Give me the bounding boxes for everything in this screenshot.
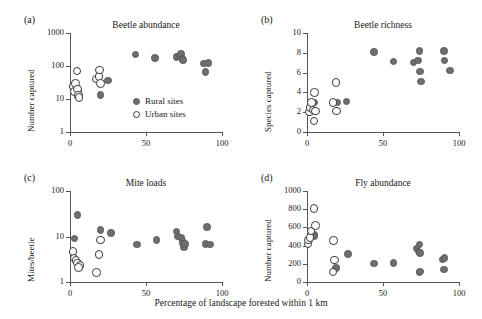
- data-point-c-rural-3: [107, 229, 115, 237]
- data-point-c-urban-8: [96, 236, 105, 245]
- data-point-c-rural-1: [74, 211, 82, 219]
- data-point-d-urban-7: [330, 256, 339, 265]
- y-tick-label-d-2: 400: [267, 240, 301, 250]
- data-point-c-rural-4: [133, 241, 141, 249]
- y-tick-label-d-1: 200: [267, 258, 301, 268]
- data-point-d-rural-13: [441, 254, 449, 262]
- y-tick-label-d-4: 800: [267, 203, 301, 213]
- x-tick-label-d-2: 100: [439, 288, 479, 298]
- x-axis-label: Percentage of landscape forested within …: [0, 298, 482, 308]
- legend-label-urban: Urban sites: [145, 109, 186, 119]
- y-tick-label-d-3: 600: [267, 221, 301, 231]
- legend-label-rural: Rural sites: [145, 96, 183, 106]
- figure-panel-grid: (a)Beetle abundanceNumber captured110100…: [0, 0, 482, 319]
- legend: Rural sitesUrban sites: [133, 96, 233, 124]
- x-tick-mark-d-2: [459, 282, 460, 286]
- y-tick-mark-d-3: [303, 227, 307, 228]
- x-tick-mark-d-0: [307, 282, 308, 286]
- data-point-a-rural-14: [202, 68, 210, 76]
- data-point-d-rural-5: [390, 259, 398, 267]
- y-tick-label-d-5: 1000: [267, 185, 301, 195]
- data-point-d-rural-14: [440, 266, 448, 274]
- data-point-a-urban-10: [96, 79, 105, 88]
- x-tick-label-d-0: 0: [287, 288, 327, 298]
- data-point-a-rural-7: [151, 54, 159, 62]
- data-point-a-rural-4: [97, 91, 105, 99]
- data-point-b-urban-5: [311, 107, 320, 116]
- panel-title-d: Fly abundance: [303, 178, 463, 188]
- data-point-d-rural-11: [416, 268, 424, 276]
- data-point-c-rural-12: [181, 240, 189, 248]
- legend-marker-rural-icon: [133, 98, 140, 105]
- y-tick-label-d-0: 0: [267, 276, 301, 286]
- data-point-d-rural-9: [416, 249, 424, 257]
- data-point-d-rural-3: [344, 250, 352, 258]
- data-point-c-urban-6: [92, 268, 101, 277]
- data-point-b-urban-8: [332, 78, 341, 87]
- y-tick-mark-d-4: [303, 209, 307, 210]
- data-point-b-urban-4: [310, 88, 319, 97]
- x-tick-label-d-1: 50: [363, 288, 403, 298]
- data-point-c-urban-7: [95, 250, 104, 259]
- data-point-c-rural-15: [206, 241, 214, 249]
- data-point-d-urban-4: [310, 204, 319, 213]
- y-tick-mark-d-1: [303, 264, 307, 265]
- data-point-b-rural-13: [446, 67, 454, 75]
- data-point-b-rural-10: [417, 78, 425, 86]
- x-tick-mark-d-1: [383, 282, 384, 286]
- data-point-c-rural-2: [97, 226, 105, 234]
- data-point-b-rural-4: [370, 48, 378, 56]
- data-point-a-rural-5: [104, 77, 112, 85]
- data-point-b-urban-7: [329, 98, 338, 107]
- data-point-c-urban-5: [74, 263, 83, 272]
- data-point-d-urban-6: [329, 236, 338, 245]
- panel-letter-d: (d): [261, 172, 273, 183]
- data-point-a-rural-15: [205, 59, 213, 67]
- data-point-d-rural-4: [370, 260, 378, 268]
- data-point-b-rural-11: [440, 47, 448, 55]
- panel-d: (d)Fly abundanceNumber captured020040060…: [0, 0, 482, 319]
- data-point-c-rural-14: [203, 223, 211, 231]
- data-point-d-urban-8: [329, 268, 338, 277]
- data-point-b-rural-8: [416, 47, 424, 55]
- y-tick-mark-d-5: [303, 191, 307, 192]
- data-point-d-rural-8: [416, 241, 424, 249]
- legend-marker-urban-icon: [133, 111, 140, 118]
- data-point-d-urban-5: [311, 221, 320, 230]
- data-point-a-rural-12: [179, 56, 187, 64]
